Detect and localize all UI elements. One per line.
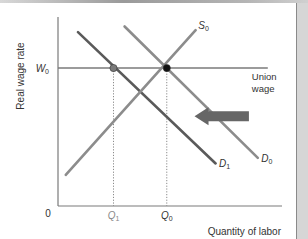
curve-S0 [66, 30, 196, 175]
y-axis-title: Real wage rate [15, 42, 26, 110]
union-wage-label: Unionwage [251, 71, 277, 94]
x-axis-title: Quantity of labor [208, 226, 282, 237]
y-tick-label-W0: W0 [36, 63, 49, 75]
curve-label-D0: D0 [261, 153, 272, 165]
curve-label-D1: D1 [219, 158, 230, 170]
chart: .sub{font-size:7px;} Real wage rate Quan… [0, 0, 308, 239]
origin-label: 0 [45, 208, 51, 219]
curve-label-S0: S0 [198, 20, 209, 32]
x-tick-label-Q0: Q0 [161, 210, 173, 222]
point-W0-D1 [110, 64, 117, 71]
point-W0-D0 [163, 64, 170, 71]
x-tick-label-Q1: Q1 [108, 210, 120, 222]
curve-D0 [125, 26, 258, 157]
curve-D1 [78, 32, 216, 163]
